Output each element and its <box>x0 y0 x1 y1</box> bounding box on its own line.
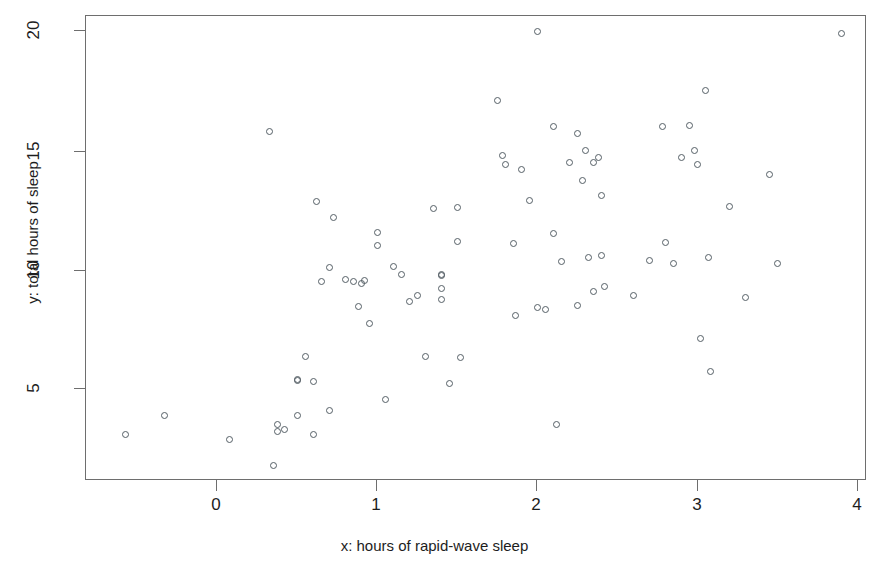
y-axis-title: y: total hours of sleep <box>0 222 132 242</box>
data-point <box>310 378 317 385</box>
data-point <box>534 28 541 35</box>
data-point <box>512 312 519 319</box>
data-point <box>350 278 357 285</box>
data-point <box>438 272 445 279</box>
x-tick-label: 4 <box>837 495 869 515</box>
data-point <box>270 462 277 469</box>
data-point <box>518 166 525 173</box>
data-point <box>406 298 413 305</box>
data-point <box>534 304 541 311</box>
x-tick-mark <box>376 480 377 491</box>
data-point <box>686 122 693 129</box>
data-point <box>705 254 712 261</box>
data-point <box>355 303 362 310</box>
data-point <box>122 431 129 438</box>
data-point <box>374 229 381 236</box>
data-point <box>670 260 677 267</box>
data-point <box>726 203 733 210</box>
data-point <box>313 198 320 205</box>
data-point <box>326 264 333 271</box>
data-point <box>438 296 445 303</box>
data-point <box>310 431 317 438</box>
y-tick-mark <box>74 30 85 31</box>
y-tick-label: 5 <box>22 376 46 400</box>
data-point <box>550 230 557 237</box>
x-tick-label: 1 <box>356 495 396 515</box>
data-point <box>574 302 581 309</box>
data-point <box>662 239 669 246</box>
data-point <box>579 177 586 184</box>
data-point <box>398 271 405 278</box>
y-tick-mark <box>74 270 85 271</box>
data-point <box>499 152 506 159</box>
y-axis-title-text: y: total hours of sleep <box>24 161 41 304</box>
data-point <box>366 320 373 327</box>
x-tick-mark <box>697 480 698 491</box>
data-point <box>330 214 337 221</box>
data-point <box>646 257 653 264</box>
data-point <box>694 161 701 168</box>
data-point <box>707 368 714 375</box>
data-point <box>590 288 597 295</box>
scatter-plot-figure: 20 15 10 5 0 1 2 3 4 y: total hours of s… <box>0 0 869 565</box>
y-tick-mark <box>74 388 85 389</box>
data-point <box>774 260 781 267</box>
data-point <box>446 380 453 387</box>
data-point <box>838 30 845 37</box>
data-point <box>585 254 592 261</box>
data-point <box>601 283 608 290</box>
data-point <box>659 123 666 130</box>
y-tick-label: 15 <box>22 139 46 163</box>
y-tick-mark <box>74 151 85 152</box>
data-point <box>691 147 698 154</box>
data-point <box>161 412 168 419</box>
data-point <box>595 154 602 161</box>
data-point <box>457 354 464 361</box>
data-point <box>510 240 517 247</box>
data-point <box>422 353 429 360</box>
data-point <box>382 396 389 403</box>
x-tick-label: 3 <box>677 495 717 515</box>
data-point <box>582 147 589 154</box>
data-point <box>302 353 309 360</box>
x-tick-label: 0 <box>196 495 236 515</box>
data-point <box>494 97 501 104</box>
data-point <box>502 161 509 168</box>
y-tick-label-text: 15 <box>24 142 44 161</box>
data-point <box>678 154 685 161</box>
y-tick-label-text: 5 <box>24 383 44 392</box>
data-point <box>326 407 333 414</box>
data-point <box>742 294 749 301</box>
x-axis-title: x: hours of rapid-wave sleep <box>0 537 869 554</box>
data-point <box>390 263 397 270</box>
data-point <box>430 205 437 212</box>
data-point <box>550 123 557 130</box>
data-point <box>361 277 368 284</box>
data-point <box>294 377 301 384</box>
x-tick-mark <box>857 480 858 491</box>
data-point <box>558 258 565 265</box>
plot-area <box>86 16 865 479</box>
data-point <box>574 130 581 137</box>
data-point <box>374 242 381 249</box>
plot-frame <box>85 15 866 480</box>
x-tick-mark <box>216 480 217 491</box>
data-point <box>766 171 773 178</box>
data-point <box>294 412 301 419</box>
x-tick-mark <box>536 480 537 491</box>
y-tick-label-text: 20 <box>24 21 44 40</box>
data-point <box>542 306 549 313</box>
data-point <box>342 276 349 283</box>
data-point <box>414 292 421 299</box>
data-point <box>281 426 288 433</box>
x-tick-label: 2 <box>516 495 556 515</box>
data-point <box>266 128 273 135</box>
data-point <box>598 192 605 199</box>
data-point <box>526 197 533 204</box>
data-point <box>226 436 233 443</box>
y-tick-label: 20 <box>22 18 46 42</box>
data-point <box>454 238 461 245</box>
data-point <box>553 421 560 428</box>
data-point <box>454 204 461 211</box>
data-point <box>598 252 605 259</box>
